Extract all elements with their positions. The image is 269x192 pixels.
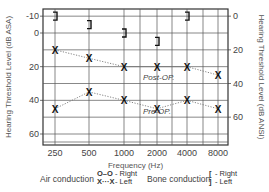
- x-tick: 500: [81, 148, 96, 158]
- x-tick: 250: [47, 148, 62, 158]
- y-tick-left: 0: [34, 28, 39, 38]
- marker-x-left-air: X: [86, 53, 93, 64]
- y-tick-right: 20: [233, 45, 243, 55]
- audiogram-chart: -10020406002040602505001000200040008000F…: [0, 0, 269, 192]
- legend-air-conduction-label: Air conduction: [40, 174, 94, 184]
- series-line: [187, 100, 218, 108]
- marker-x-left-air: X: [121, 62, 128, 73]
- marker-x-left-air: X: [184, 95, 191, 106]
- x-tick: 4000: [177, 148, 197, 158]
- y-tick-left: 20: [29, 62, 39, 72]
- marker-x-left-air: X: [215, 104, 222, 115]
- y-tick-right: 40: [233, 79, 243, 89]
- series-line: [55, 50, 89, 58]
- marker-x-left-air: X: [86, 87, 93, 98]
- y-tick-left: 40: [29, 95, 39, 105]
- marker-x-left-air: X: [121, 95, 128, 106]
- legend-air-left-symbol: X···X: [97, 178, 115, 186]
- series-line: [187, 67, 218, 75]
- y-tick-right: 60: [233, 112, 243, 122]
- series-line: [89, 58, 124, 66]
- y-tick-right: 0: [233, 11, 238, 21]
- marker-x-left-air: X: [215, 70, 222, 81]
- marker-x-left-air: X: [52, 45, 59, 56]
- x-tick: 2000: [147, 148, 167, 158]
- annotation-pre-op: Pre-OP.: [143, 107, 171, 116]
- x-tick: 8000: [208, 148, 228, 158]
- marker-x-left-air: X: [154, 62, 161, 73]
- legend-bone-conduction-label: Bone conduction: [147, 174, 210, 184]
- marker-x-left-air: X: [184, 62, 191, 73]
- y-tick-left: 60: [29, 129, 39, 139]
- y-axis-label-left: Hearing Threshold Level (dB ASA): [4, 16, 13, 138]
- legend-bone-left-symbol: ]: [209, 178, 212, 186]
- y-tick-left: -10: [26, 11, 39, 21]
- plot-frame: [43, 9, 228, 145]
- annotation-post-op: Post-OP.: [143, 73, 174, 82]
- legend-air-left-label: - Left: [115, 178, 132, 186]
- y-axis-label-right: Hearing Threshold Level (dB ANSI): [257, 15, 266, 140]
- marker-x-left-air: X: [52, 104, 59, 115]
- series-line: [89, 92, 124, 100]
- x-tick: 1000: [114, 148, 134, 158]
- legend-bone-left-label: - Left: [215, 178, 232, 186]
